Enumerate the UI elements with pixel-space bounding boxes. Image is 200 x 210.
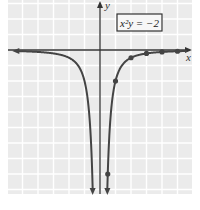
data-point	[175, 49, 180, 54]
equation-label: x²y = −2	[119, 17, 159, 29]
data-point	[128, 55, 133, 60]
data-point	[113, 78, 118, 83]
x-axis-label: x	[185, 51, 191, 63]
y-axis-label: y	[104, 0, 110, 11]
data-point	[144, 51, 149, 56]
data-point	[159, 49, 164, 54]
graph: x y x²y = −2	[0, 0, 200, 210]
data-point	[105, 171, 110, 176]
equation-label-box: x²y = −2	[117, 14, 162, 31]
